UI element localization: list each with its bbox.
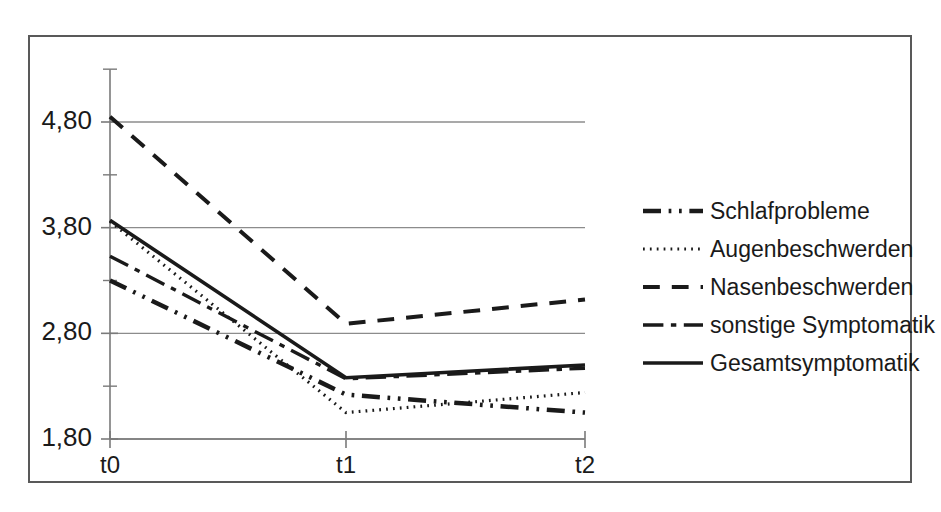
legend-line-sample-icon xyxy=(642,353,704,373)
chart-legend: SchlafproblemeAugenbeschwerdenNasenbesch… xyxy=(642,192,941,382)
legend-line-sample-icon xyxy=(642,315,704,335)
series-line-gesamtsymptomatik xyxy=(110,220,585,377)
legend-item-sonstige-symptomatik[interactable]: sonstige Symptomatik xyxy=(642,306,941,344)
y-axis-tick-label: 1,80 xyxy=(14,422,92,453)
legend-line-sample-icon xyxy=(642,201,704,221)
legend-item-gesamtsymptomatik[interactable]: Gesamtsymptomatik xyxy=(642,344,941,382)
series-line-sonstige-symptomatik xyxy=(110,256,585,379)
legend-item-label: Augenbeschwerden xyxy=(710,236,913,263)
chart-figure: 1,802,803,804,80 t0t1t2 SchlafproblemeAu… xyxy=(0,0,941,512)
series-line-schlafprobleme xyxy=(110,281,585,413)
legend-item-label: Nasenbeschwerden xyxy=(710,274,913,301)
x-axis-tick-label-t2: t2 xyxy=(555,451,615,479)
legend-line-sample-icon xyxy=(642,239,704,259)
legend-item-label: sonstige Symptomatik xyxy=(710,312,935,339)
legend-item-augenbeschwerden[interactable]: Augenbeschwerden xyxy=(642,230,941,268)
gridlines-group xyxy=(110,122,585,439)
y-axis-tick-label: 4,80 xyxy=(14,105,92,136)
chart-frame: 1,802,803,804,80 t0t1t2 SchlafproblemeAu… xyxy=(28,35,912,483)
series-line-augenbeschwerden xyxy=(110,221,585,412)
legend-item-label: Gesamtsymptomatik xyxy=(710,350,920,377)
x-axis-tick-label-t0: t0 xyxy=(80,451,140,479)
x-axis-tick-label-t1: t1 xyxy=(316,451,376,479)
series-line-nasenbeschwerden xyxy=(110,117,585,324)
axis-lines-group xyxy=(110,69,585,439)
legend-item-label: Schlafprobleme xyxy=(710,198,870,225)
legend-item-schlafprobleme[interactable]: Schlafprobleme xyxy=(642,192,941,230)
y-axis-tick-label: 2,80 xyxy=(14,316,92,347)
data-series-group xyxy=(110,117,585,413)
legend-line-sample-icon xyxy=(642,277,704,297)
legend-item-nasenbeschwerden[interactable]: Nasenbeschwerden xyxy=(642,268,941,306)
y-axis-tick-label: 3,80 xyxy=(14,211,92,242)
